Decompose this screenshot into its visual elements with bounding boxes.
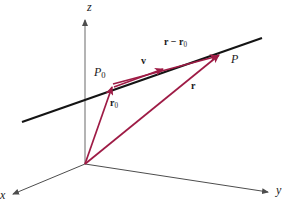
y-axis-line xyxy=(85,164,268,192)
vector-label-r-minus-r0-base: r − r xyxy=(164,36,183,47)
axes-group xyxy=(13,20,268,194)
vector-r-minus-r0-shaft xyxy=(113,56,218,84)
axis-label-z: z xyxy=(87,1,92,13)
point-label-P0-subscript: 0 xyxy=(101,70,105,80)
vector-label-r-minus-r0-subscript: 0 xyxy=(183,41,187,49)
point-label-P: P xyxy=(231,53,238,65)
vector-label-r-minus-r0: r − r0 xyxy=(164,37,187,49)
vector-label-r0: r0 xyxy=(110,98,118,110)
axis-label-x: x xyxy=(0,189,5,201)
point-label-P0: P0 xyxy=(94,66,106,80)
line-group xyxy=(22,38,262,122)
axis-label-y: y xyxy=(276,184,281,196)
vector-v-shaft xyxy=(114,69,163,87)
vector-label-r: r xyxy=(191,81,195,91)
vector-label-r0-subscript: 0 xyxy=(114,102,118,110)
vector-line-diagram: z y x P0 P r0 r v r − r0 xyxy=(0,0,291,203)
diagram-canvas xyxy=(0,0,291,203)
line-through-P0-and-P xyxy=(22,38,262,122)
vector-label-v: v xyxy=(141,56,146,66)
x-axis-line xyxy=(13,164,85,194)
